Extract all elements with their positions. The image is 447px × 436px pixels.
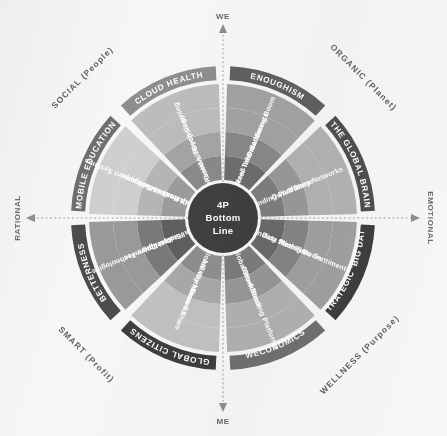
quadrant-label-wellness: WELLNESS (Purpose) <box>318 313 401 396</box>
arrow-left-icon <box>26 214 35 222</box>
axis-label-rational: RATIONAL <box>13 195 22 241</box>
center-line-1: 4P <box>217 199 230 210</box>
center-hub: 4P Bottom Line <box>188 183 258 253</box>
arrow-up-icon <box>219 24 227 33</box>
four-p-bottom-line-wheel: GLOBAL CITIZENSMobile Global WorkforceAf… <box>0 0 447 436</box>
axis-label-emotional: EMOTIONAL <box>426 191 435 244</box>
arrow-right-icon <box>411 214 420 222</box>
axis-label-me: ME <box>216 417 229 426</box>
arrow-down-icon <box>219 403 227 412</box>
center-line-2: Bottom <box>205 212 240 223</box>
quadrant-label-organic: ORGANIC (Planet) <box>328 42 399 113</box>
quadrant-label-social: SOCIAL (People) <box>49 44 115 110</box>
axis-label-we: WE <box>216 12 230 21</box>
radial-diagram-canvas: GLOBAL CITIZENSMobile Global WorkforceAf… <box>0 0 447 436</box>
quadrant-label-smart: SMART (Profit) <box>56 324 116 384</box>
center-line-3: Line <box>213 225 234 236</box>
